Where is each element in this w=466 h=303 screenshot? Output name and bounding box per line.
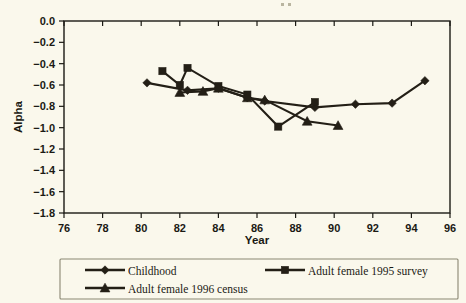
x-tick-label: 84 — [212, 222, 225, 234]
y-tick-label: −1.4 — [33, 164, 56, 176]
x-tick-label: 96 — [444, 222, 456, 234]
x-tick-label: 86 — [251, 222, 263, 234]
x-tick-label: 92 — [367, 222, 379, 234]
y-tick-label: −1.0 — [33, 122, 55, 134]
artifact-speck — [281, 3, 284, 6]
data-marker-square — [184, 64, 191, 71]
y-axis-title: Alpha — [12, 100, 24, 133]
y-tick-label: −0.6 — [33, 79, 55, 91]
y-tick-label: −0.2 — [33, 36, 55, 48]
x-tick-label: 88 — [289, 222, 301, 234]
y-tick-label: −1.6 — [33, 186, 55, 198]
y-tick-label: 0.0 — [40, 15, 55, 27]
legend-label: Adult female 1995 survey — [308, 265, 428, 278]
alpha-vs-year-line-chart: 7678808284868890929496 0.0−0.2−0.4−0.6−0… — [0, 0, 466, 303]
legend-label: Childhood — [128, 265, 177, 277]
y-tick-label: −0.8 — [33, 100, 55, 112]
x-tick-label: 80 — [135, 222, 147, 234]
y-tick-label: −1.2 — [33, 143, 55, 155]
figure-background — [0, 0, 466, 303]
chart-figure: 7678808284868890929496 0.0−0.2−0.4−0.6−0… — [0, 0, 466, 303]
x-axis-title: Year — [245, 234, 270, 246]
x-tick-label: 82 — [174, 222, 186, 234]
data-marker-square — [311, 98, 318, 105]
x-tick-label: 90 — [328, 222, 340, 234]
legend-label: Adult female 1996 census — [128, 283, 248, 295]
y-tick-label: −1.8 — [33, 207, 55, 219]
x-tick-label: 76 — [58, 222, 70, 234]
x-tick-label: 78 — [96, 222, 108, 234]
data-marker-square — [281, 266, 288, 273]
data-marker-square — [275, 123, 282, 130]
y-tick-label: −0.4 — [33, 58, 56, 70]
data-marker-square — [159, 68, 166, 75]
artifact-speck — [288, 3, 291, 6]
x-tick-label: 94 — [405, 222, 418, 234]
